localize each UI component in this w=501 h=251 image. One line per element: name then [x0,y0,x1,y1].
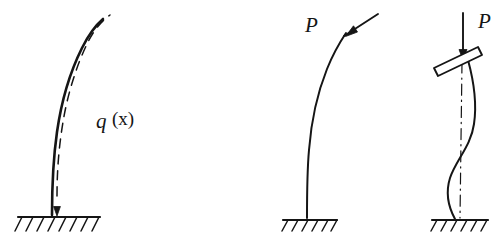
figure-canvas: q (x) P [0,0,501,251]
label-P-axial: P [304,13,318,37]
load-arrow-head [54,207,61,217]
engineering-figure: q (x) P [0,0,501,251]
label-q-of-x: q [96,109,107,133]
ground-hatching [282,220,337,231]
ground-hatching [15,217,99,231]
panel-axial-load: P [282,13,378,231]
column-curve-axial [307,33,346,218]
ground-hatching [431,220,487,231]
distributed-load-dashed-line [57,15,110,196]
label-q-of-x-argument: (x) [112,108,134,130]
centerline-dash-dot [460,62,462,218]
rigid-plate [434,47,482,76]
panel-distributed-load: q (x) [15,15,134,231]
label-P-buckled: P [477,9,491,33]
panel-buckled-plate: P [431,9,491,231]
